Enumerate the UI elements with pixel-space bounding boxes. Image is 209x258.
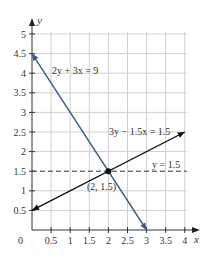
y-tick-label: 3: [21, 107, 26, 118]
x-tick-label: 0.5: [45, 235, 58, 246]
intersection-point-label: (2, 1.5): [87, 181, 116, 193]
label-y-eq-1.5: y = 1.5: [152, 159, 180, 170]
x-tick-label: 3: [144, 235, 149, 246]
y-tick-label: 0.5: [14, 205, 27, 216]
label-3y-minus-1.5x-eq-1.5: 3y − 1.5x = 1.5: [109, 126, 170, 137]
y-tick-label: 5: [21, 29, 26, 40]
line-arrow-end-icon: [140, 222, 146, 230]
y-tick-label: 4: [21, 68, 26, 79]
x-tick-label: 2.5: [121, 235, 134, 246]
x-axis-label: x: [193, 233, 199, 245]
y-axis-label: y: [36, 14, 42, 26]
y-tick-label: 1.5: [14, 166, 27, 177]
x-tick-label: 1.5: [83, 235, 96, 246]
ticks: 0.511.522.533.540.511.522.533.544.55: [14, 29, 188, 247]
y-tick-label: 4.5: [14, 48, 27, 59]
x-tick-label: 2: [106, 235, 111, 246]
x-tick-label: 3.5: [159, 235, 172, 246]
y-tick-label: 1: [21, 185, 26, 196]
label-2y-plus-3x-eq-9: 2y + 3x = 9: [52, 65, 98, 76]
y-tick-label: 2.5: [14, 127, 27, 138]
series-lines: [32, 54, 187, 230]
origin-label: 0: [18, 235, 23, 246]
y-axis-arrow-icon: [29, 18, 35, 26]
chart-canvas: 0.511.522.533.540.511.522.533.544.55 x y…: [0, 0, 209, 258]
x-tick-label: 1: [68, 235, 73, 246]
x-tick-label: 4: [182, 235, 187, 246]
intersection-point: [105, 168, 111, 174]
y-tick-label: 3.5: [14, 87, 27, 98]
line-arrow-start-icon: [32, 54, 38, 62]
y-tick-label: 2: [21, 146, 26, 157]
